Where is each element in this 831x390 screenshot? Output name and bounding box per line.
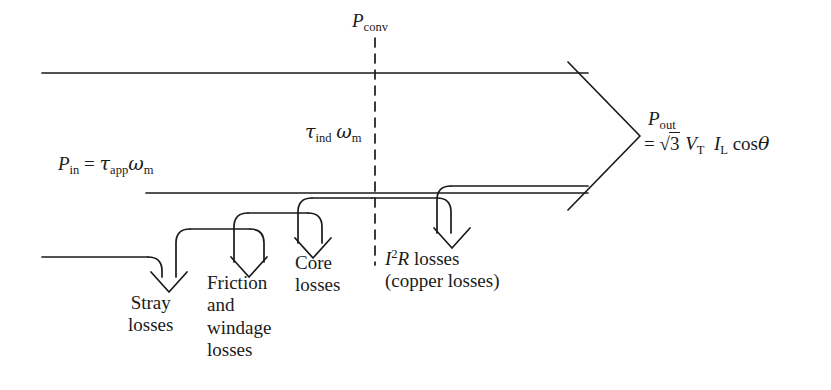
p-in-equals: =: [84, 153, 95, 174]
tau-ind-subscript: ind: [316, 131, 332, 145]
friction-loss-stem-inner: [234, 213, 248, 262]
omega-m-subscript: m: [144, 163, 154, 177]
tau-app-subscript: app: [110, 163, 128, 177]
friction-losses-line-2: and: [207, 294, 271, 316]
tau-app-symbol: τ: [100, 152, 111, 174]
core-losses-line-2: losses: [295, 274, 340, 296]
label-p-out: Pout = √3 VT IL cosθ: [648, 108, 769, 156]
copper-resistance-symbol: R: [398, 248, 410, 269]
theta-symbol: θ: [758, 132, 769, 154]
label-stray-losses: Stray losses: [128, 292, 173, 337]
stray-loss-arrowhead: [151, 272, 187, 292]
square-root-icon: √3: [659, 133, 680, 155]
friction-losses-line-4: losses: [207, 339, 271, 361]
copper-loss-arrowhead: [434, 228, 470, 248]
friction-losses-line-3: windage: [207, 317, 271, 339]
copper-loss-stem-outer: [437, 198, 451, 233]
stray-losses-line-1: Stray: [128, 292, 173, 314]
cos-operator: cos: [733, 133, 758, 154]
core-loss-stem-outer: [308, 213, 322, 243]
label-copper-losses: I2R losses (copper losses): [385, 248, 500, 293]
omega-m-airgap-symbol: ω: [336, 120, 352, 142]
p-conv-subscript: conv: [364, 20, 388, 34]
power-flow-diagram: Pconv Pin = τappωm τind ωm Pout = √3 VT …: [0, 0, 831, 390]
core-losses-line-1: Core: [295, 252, 340, 274]
copper-losses-word: losses: [414, 248, 459, 269]
current-subscript: L: [720, 143, 728, 157]
stray-loss-stem-outer: [148, 257, 162, 277]
p-in-subscript: in: [70, 163, 80, 177]
label-p-conv: Pconv: [352, 10, 388, 32]
stray-loss-stem-inner: [176, 229, 190, 277]
copper-losses-formula: I2R losses: [385, 248, 500, 270]
friction-losses-line-1: Friction: [207, 272, 271, 294]
p-in-symbol: P: [58, 153, 70, 174]
label-p-in: Pin = τappωm: [58, 152, 153, 175]
p-out-subscript: out: [660, 118, 676, 132]
radicand: 3: [669, 132, 681, 154]
voltage-symbol: V: [685, 133, 697, 154]
output-arrowhead: [568, 62, 640, 210]
p-conv-symbol: P: [352, 10, 364, 31]
p-out-symbol: P: [648, 108, 660, 129]
tau-ind-symbol: τ: [305, 120, 316, 142]
label-friction-windage-losses: Friction and windage losses: [207, 272, 271, 362]
p-out-formula: = √3 VT IL cosθ: [644, 132, 769, 155]
flow-arrow-graphic: [0, 0, 831, 390]
label-core-losses: Core losses: [295, 252, 340, 297]
stray-losses-line-2: losses: [128, 314, 173, 336]
label-tau-ind-omega-m: τind ωm: [305, 120, 362, 143]
core-loss-stem-inner: [298, 198, 312, 243]
copper-losses-line-2: (copper losses): [385, 270, 500, 292]
p-out-head: Pout: [648, 108, 769, 130]
omega-m-airgap-subscript: m: [352, 131, 362, 145]
voltage-subscript: T: [697, 143, 705, 157]
omega-m-symbol: ω: [128, 152, 144, 174]
p-out-equals: =: [644, 133, 655, 154]
friction-loss-stem-outer: [250, 229, 264, 262]
